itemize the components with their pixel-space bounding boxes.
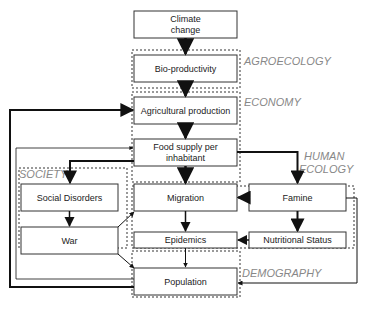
zone-label-society: SOCIETY (19, 168, 68, 180)
zone-label-economy: ECONOMY (244, 96, 302, 108)
svg-text:War: War (61, 236, 77, 246)
svg-text:Migration: Migration (167, 193, 204, 203)
zone-label-agroecology: AGROECOLOGY (243, 55, 331, 67)
svg-text:Population: Population (164, 277, 207, 287)
node-nutritional-status: Nutritional Status (249, 232, 346, 248)
svg-text:Famine: Famine (282, 193, 312, 203)
node-food-supply: Food supply per inhabitant (134, 139, 237, 166)
svg-text:change: change (171, 25, 201, 35)
arrow-food-famine (237, 152, 298, 183)
zone-label-ecology: ECOLOGY (299, 163, 354, 175)
svg-text:inhabitant: inhabitant (166, 153, 206, 163)
zone-label-human: HUMAN (304, 150, 344, 162)
diagram-canvas: AGROECOLOGY ECONOMY HUMAN ECOLOGY SOCIET… (0, 0, 369, 315)
node-agricultural-production: Agricultural production (134, 97, 237, 124)
flowchart-svg: AGROECOLOGY ECONOMY HUMAN ECOLOGY SOCIET… (0, 0, 369, 315)
node-social-disorders: Social Disorders (21, 184, 118, 211)
node-famine: Famine (249, 184, 346, 211)
svg-text:Agricultural production: Agricultural production (141, 106, 231, 116)
svg-text:Epidemics: Epidemics (165, 235, 207, 245)
node-epidemics: Epidemics (134, 232, 237, 248)
node-war: War (21, 227, 118, 254)
zone-label-demography: DEMOGRAPHY (242, 267, 322, 279)
arrow-food-social (70, 161, 134, 183)
node-migration: Migration (134, 184, 237, 211)
svg-text:Food supply per: Food supply per (153, 142, 218, 152)
svg-text:Social Disorders: Social Disorders (37, 193, 103, 203)
node-climate-change: Climate change (134, 11, 237, 38)
svg-text:Bio-productivity: Bio-productivity (155, 64, 217, 74)
svg-text:Nutritional Status: Nutritional Status (263, 235, 332, 245)
node-bio-productivity: Bio-productivity (134, 55, 237, 82)
node-population: Population (134, 268, 237, 295)
svg-text:Climate: Climate (170, 14, 201, 24)
